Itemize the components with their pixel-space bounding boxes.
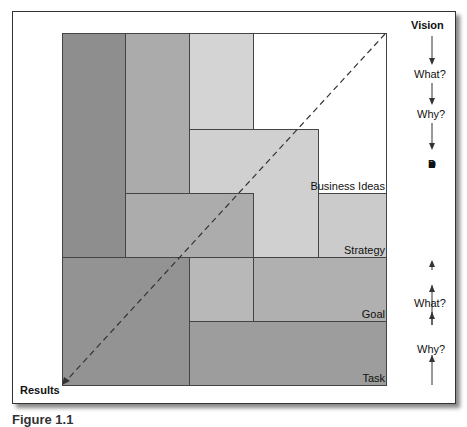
results-arrowhead-icon (62, 377, 70, 385)
arrow-up-icon (429, 312, 435, 319)
label-results: Results (20, 384, 60, 396)
arrow-down-icon (429, 98, 435, 105)
label-what-top: What? (414, 68, 446, 80)
arrow-down-icon (429, 143, 435, 150)
arrow-down-icon (429, 58, 435, 65)
label-what-bottom: What? (414, 297, 446, 309)
figure-caption: Figure 1.1 (12, 412, 73, 427)
label-vision: Vision (411, 19, 444, 31)
arrow-up-icon (429, 285, 435, 292)
diagonal-dashed-line (66, 34, 385, 381)
arrow-up-icon (429, 260, 435, 267)
arrow-up-icon (429, 355, 435, 362)
label-why-top: Why? (417, 108, 445, 120)
label-why-bottom: Why? (417, 343, 445, 355)
